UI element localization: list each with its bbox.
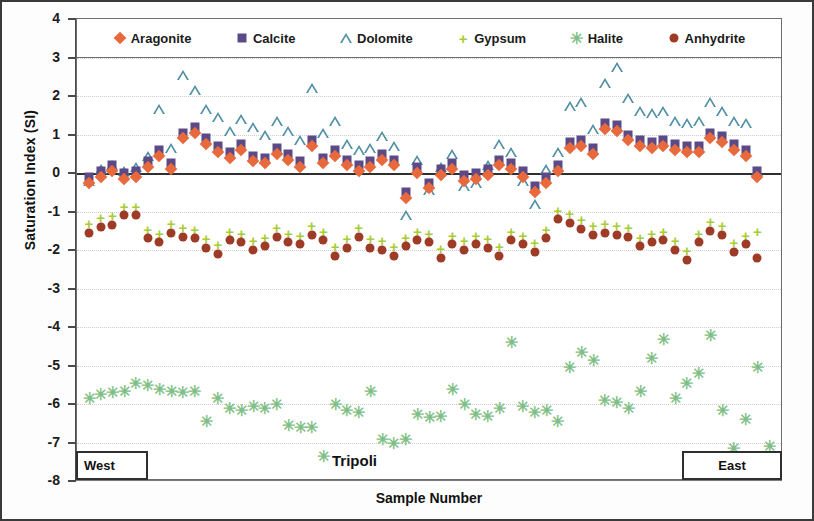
data-point-halite: ✳	[551, 417, 564, 426]
y-axis-tick	[68, 18, 76, 20]
data-point-gypsum: +	[472, 230, 481, 239]
data-point-gypsum: +	[507, 226, 516, 235]
data-point-gypsum: +	[237, 228, 246, 237]
data-point-dolomite	[189, 85, 201, 95]
data-point-gypsum: +	[448, 230, 457, 239]
data-point-anhydrite	[401, 242, 410, 251]
diamond-marker-icon	[113, 31, 127, 45]
y-axis-title: Saturation Index (SI)	[22, 70, 38, 290]
data-point-dolomite	[657, 106, 669, 116]
data-point-gypsum: +	[636, 232, 645, 241]
data-point-anhydrite	[741, 240, 750, 249]
data-point-anhydrite	[636, 242, 645, 251]
data-point-gypsum: +	[167, 219, 176, 228]
data-point-gypsum: +	[307, 220, 316, 229]
data-point-anhydrite	[647, 238, 656, 247]
data-point-anhydrite	[296, 240, 305, 249]
data-point-gypsum: +	[589, 220, 598, 229]
data-point-anhydrite	[718, 230, 727, 239]
data-point-gypsum: +	[284, 228, 293, 237]
data-point-gypsum: +	[612, 220, 621, 229]
data-point-anhydrite	[155, 238, 164, 247]
data-point-anhydrite	[753, 253, 762, 262]
data-point-dolomite	[681, 118, 693, 128]
data-point-dolomite	[364, 143, 376, 153]
data-point-halite: ✳	[669, 394, 682, 403]
y-axis-tick	[68, 365, 76, 367]
data-point-halite: ✳	[751, 363, 764, 372]
data-point-anhydrite	[389, 251, 398, 260]
data-point-dolomite	[212, 112, 224, 122]
data-point-dolomite	[376, 131, 388, 141]
data-point-anhydrite	[131, 211, 140, 220]
y-axis-tick	[68, 288, 76, 290]
data-point-anhydrite	[85, 228, 94, 237]
region-label-west: West	[76, 451, 148, 480]
region-west-text: West	[84, 458, 115, 473]
data-point-dolomite	[306, 83, 318, 93]
data-point-gypsum: +	[96, 213, 105, 222]
data-point-gypsum: +	[530, 238, 539, 247]
data-point-gypsum: +	[624, 222, 633, 231]
legend-item-gypsum: +Gypsum	[456, 31, 526, 46]
data-point-gypsum: +	[155, 228, 164, 237]
triangle-marker-icon	[339, 31, 353, 45]
data-point-gypsum: +	[600, 219, 609, 228]
data-point-dolomite	[493, 139, 505, 149]
data-point-dolomite	[388, 141, 400, 151]
data-point-dolomite	[622, 93, 634, 103]
data-point-gypsum: +	[565, 209, 574, 218]
data-point-halite: ✳	[352, 407, 365, 416]
y-axis-tick-label: 4	[30, 11, 60, 25]
region-label-east: East	[682, 451, 782, 480]
data-point-halite: ✳	[200, 417, 213, 426]
y-axis-tick	[68, 134, 76, 136]
data-point-dolomite	[329, 116, 341, 126]
region-east-text: East	[718, 458, 745, 473]
legend-label: Anhydrite	[685, 31, 746, 46]
data-point-anhydrite	[460, 246, 469, 255]
data-point-anhydrite	[143, 234, 152, 243]
data-point-halite: ✳	[704, 330, 717, 339]
data-point-dolomite	[165, 143, 177, 153]
data-point-dolomite	[259, 130, 271, 140]
data-point-gypsum: +	[659, 226, 668, 235]
data-point-anhydrite	[413, 236, 422, 245]
star-marker-icon: ✳	[570, 31, 584, 45]
data-point-anhydrite	[542, 234, 551, 243]
data-point-gypsum: +	[483, 234, 492, 243]
data-point-anhydrite	[448, 240, 457, 249]
data-point-gypsum: +	[143, 224, 152, 233]
data-point-gypsum: +	[225, 226, 234, 235]
data-point-gypsum: +	[425, 228, 434, 237]
data-point-anhydrite	[366, 244, 375, 253]
data-point-anhydrite	[167, 228, 176, 237]
data-point-anhydrite	[178, 232, 187, 241]
data-point-dolomite	[599, 78, 611, 88]
legend-item-halite: ✳Halite	[570, 31, 623, 46]
data-point-anhydrite	[507, 236, 516, 245]
data-point-anhydrite	[471, 240, 480, 249]
plot-area: ✳✳✳✳✳✳✳✳✳✳✳✳✳✳✳✳✳✳✳✳✳✳✳✳✳✳✳✳✳✳✳✳✳✳✳✳✳✳✳✳…	[77, 19, 781, 479]
data-point-anhydrite	[706, 226, 715, 235]
data-point-dolomite	[271, 116, 283, 126]
data-point-gypsum: +	[249, 236, 258, 245]
data-point-anhydrite	[436, 253, 445, 262]
data-point-gypsum: +	[108, 211, 117, 220]
data-point-dolomite	[224, 126, 236, 136]
data-point-gypsum: +	[354, 222, 363, 231]
chart-screenshot: 43210-1-2-3-4-5-6-7-8 Saturation Index (…	[0, 0, 814, 521]
data-point-dolomite	[693, 116, 705, 126]
data-point-gypsum: +	[718, 220, 727, 229]
data-point-halite: ✳	[634, 386, 647, 395]
data-point-halite: ✳	[434, 411, 447, 420]
data-point-anhydrite	[331, 251, 340, 260]
plus-marker-icon: +	[456, 31, 470, 45]
data-point-gypsum: +	[460, 236, 469, 245]
data-point-gypsum: +	[132, 201, 141, 210]
data-point-dolomite	[505, 147, 517, 157]
data-point-gypsum: +	[577, 215, 586, 224]
data-point-dolomite	[575, 97, 587, 107]
data-point-anhydrite	[272, 232, 281, 241]
data-point-gypsum: +	[296, 230, 305, 239]
